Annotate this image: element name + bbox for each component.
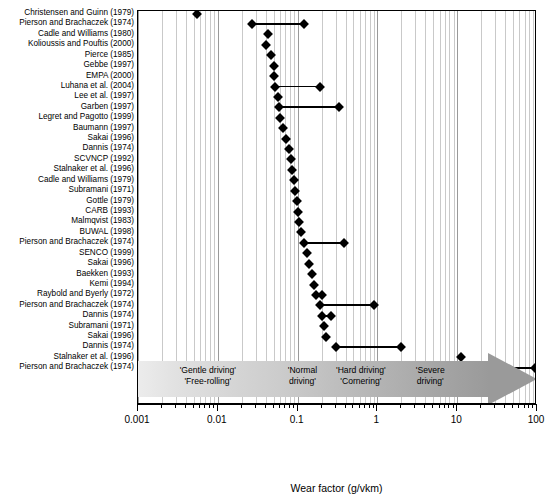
gridline [266, 11, 267, 403]
gridline [290, 11, 291, 403]
data-point-marker [331, 342, 341, 352]
data-point-marker [261, 40, 271, 50]
range-bar [336, 346, 402, 348]
study-label: Gottle (1979) [86, 196, 134, 205]
gridline [457, 11, 458, 403]
data-point-marker [270, 82, 280, 92]
gridline [360, 11, 361, 403]
gridline [533, 11, 534, 403]
data-point-marker [269, 61, 279, 71]
range-bar [275, 86, 320, 88]
study-label: Malmqvist (1983) [71, 216, 134, 225]
data-point-marker [274, 102, 284, 112]
study-label: Sakai (1996) [88, 258, 134, 267]
study-label: Kemi (1994) [89, 279, 134, 288]
gridline [176, 11, 177, 403]
gridline [162, 11, 163, 403]
regime-label-severe: 'Severedriving' [370, 365, 490, 386]
data-point-marker [318, 290, 328, 300]
data-point-marker [339, 238, 349, 248]
study-label: Legret and Pagotto (1999) [38, 112, 134, 121]
data-point-marker [299, 19, 309, 29]
study-label: Pierson and Brachaczek (1974) [19, 18, 134, 27]
study-label-column: Christensen and Guinn (1979)Pierson and … [0, 0, 137, 404]
axis-line [137, 404, 536, 405]
study-label: Pierce (1985) [85, 50, 134, 59]
gridline [242, 11, 243, 403]
arrow-head-icon [488, 353, 536, 404]
x-tick-label: 100 [528, 414, 545, 425]
gridline [322, 11, 323, 403]
data-point-marker [304, 259, 314, 269]
study-label: BUWAL (1998) [80, 227, 134, 236]
gridline [445, 11, 446, 403]
plot-area: 'Gentle driving''Free-rolling''Normaldri… [137, 10, 536, 404]
gridline [513, 11, 514, 403]
study-label: Baekken (1993) [76, 269, 134, 278]
gridline [454, 11, 455, 403]
gridline [280, 11, 281, 403]
gridline [256, 11, 257, 403]
data-point-marker [299, 238, 309, 248]
study-label: Pierson and Brachaczek (1974) [19, 237, 134, 246]
gridline [525, 11, 526, 403]
data-point-marker [315, 82, 325, 92]
chart-figure: Christensen and Guinn (1979)Pierson and … [0, 0, 553, 504]
range-bar [320, 304, 374, 306]
study-label: Garben (1997) [81, 102, 134, 111]
study-label: Luhana et al. (2004) [61, 81, 134, 90]
study-label: Pierson and Brachaczek (1974) [19, 300, 134, 309]
gridline [346, 11, 347, 403]
x-axis-title: Wear factor (g/vkm) [137, 482, 536, 494]
x-axis: 0.0010.010.1110100 [137, 404, 536, 405]
data-point-marker [322, 332, 332, 342]
range-bar [252, 23, 304, 25]
study-label: Subramani (1971) [68, 185, 134, 194]
study-label: Subramani (1971) [68, 321, 134, 330]
study-label: Stalnaker et al. (1996) [53, 164, 134, 173]
gridline [285, 11, 286, 403]
range-bar [279, 106, 339, 108]
data-point-marker [275, 113, 285, 123]
gridline [415, 11, 416, 403]
gridline [218, 11, 219, 403]
gridline [377, 11, 378, 403]
gridline [365, 11, 366, 403]
study-label: Dannis (1974) [83, 143, 134, 152]
data-point-marker [302, 248, 312, 258]
gridline [495, 11, 496, 403]
gridline [294, 11, 295, 403]
study-label: Cadle and Williams (1979) [38, 175, 134, 184]
data-point-marker [315, 300, 325, 310]
gridline [449, 11, 450, 403]
x-tick-label: 0.01 [207, 414, 226, 425]
study-label: CARB (1993) [85, 206, 134, 215]
study-label: Dannis (1974) [83, 310, 134, 319]
study-label: Lee et al. (1997) [74, 91, 134, 100]
gridline [353, 11, 354, 403]
data-point-marker [307, 269, 317, 279]
gridline [214, 11, 215, 403]
gridline [519, 11, 520, 403]
x-tick-label: 0.1 [290, 414, 304, 425]
study-label: Cadle and Williams (1980) [38, 29, 134, 38]
study-label: Raybold and Byerly (1972) [37, 289, 134, 298]
study-label: Gebbe (1997) [83, 60, 134, 69]
regime-label-line: driving' [370, 376, 490, 387]
study-label: EMPA (2000) [86, 71, 134, 80]
gridline [505, 11, 506, 403]
study-label: Pierson and Brachaczek (1974) [19, 362, 134, 371]
x-tick-label: 0.001 [124, 414, 149, 425]
gridline [200, 11, 201, 403]
data-point-marker [309, 280, 319, 290]
data-point-marker [269, 71, 279, 81]
data-point-marker [273, 92, 283, 102]
regime-label-line: 'Severe [370, 365, 490, 376]
driving-severity-arrow: 'Gentle driving''Free-rolling''Normaldri… [138, 353, 536, 404]
gridline [529, 11, 530, 403]
x-tick-label: 1 [374, 414, 380, 425]
gridline [425, 11, 426, 403]
study-label: Stalnaker et al. (1996) [53, 352, 134, 361]
gridline [374, 11, 375, 403]
study-label: Kolioussis and Pouftis (2000) [28, 39, 134, 48]
